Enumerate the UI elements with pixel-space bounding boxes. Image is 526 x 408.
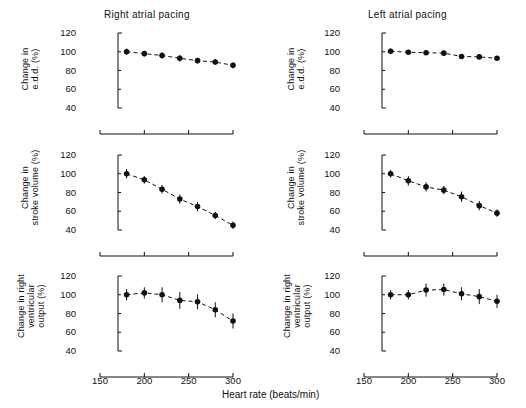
panel-title-right-atrial: Right atrial pacing	[104, 9, 190, 20]
data-point	[423, 287, 429, 293]
x-axis-spine	[100, 130, 233, 134]
ytick-label: 40	[318, 224, 340, 235]
x-axis-spine	[364, 373, 497, 377]
data-point	[212, 307, 218, 313]
data-point	[494, 210, 500, 216]
ytick-label: 80	[318, 65, 340, 76]
ylabel-rvo-left: Change in rightventricularoutput (%)	[16, 256, 46, 356]
data-point	[406, 49, 412, 55]
ytick-label: 80	[54, 65, 76, 76]
ytick-label: 120	[54, 149, 76, 160]
xtick-label: 200	[393, 375, 423, 386]
data-point	[142, 290, 148, 296]
ytick-label: 100	[54, 289, 76, 300]
data-point	[177, 56, 183, 62]
ytick-label: 60	[54, 83, 76, 94]
ylabel-sv-left: Change instroke volume (%)	[20, 140, 40, 235]
data-point	[195, 299, 201, 305]
ytick-label: 100	[54, 46, 76, 57]
data-point	[159, 186, 165, 192]
data-point	[124, 292, 130, 298]
ytick-label: 40	[54, 102, 76, 113]
data-point	[476, 203, 482, 209]
data-point	[423, 50, 429, 56]
plot-middle-right	[344, 147, 526, 272]
plot-top-right	[344, 25, 526, 150]
data-point	[230, 318, 236, 324]
ytick-label: 120	[318, 149, 340, 160]
data-point	[441, 50, 447, 56]
xtick-label: 150	[85, 375, 115, 386]
ytick-label: 100	[318, 168, 340, 179]
data-point	[230, 63, 236, 69]
plot-middle-left	[80, 147, 303, 272]
data-point	[212, 59, 218, 65]
ytick-label: 120	[54, 270, 76, 281]
ytick-label: 60	[318, 205, 340, 216]
data-point	[212, 213, 218, 219]
data-point	[142, 177, 148, 183]
plot-top-left	[80, 25, 303, 150]
xtick-label: 150	[349, 375, 379, 386]
data-point	[441, 187, 447, 193]
ytick-label: 120	[318, 27, 340, 38]
xtick-label: 250	[174, 375, 204, 386]
ytick-label: 60	[54, 205, 76, 216]
figure-panel-grid: Right atrial pacing Left atrial pacing C…	[0, 0, 526, 408]
data-point	[124, 171, 130, 177]
ytick-label: 60	[318, 83, 340, 94]
ytick-label: 120	[54, 27, 76, 38]
ytick-label: 100	[318, 289, 340, 300]
ytick-label: 40	[318, 102, 340, 113]
x-axis-spine	[364, 252, 497, 256]
x-axis-spine	[364, 130, 497, 134]
ytick-label: 80	[54, 187, 76, 198]
ytick-label: 80	[54, 308, 76, 319]
data-point	[230, 223, 236, 229]
x-axis-spine	[100, 373, 233, 377]
data-point	[476, 54, 482, 60]
data-point	[195, 204, 201, 210]
data-point	[159, 53, 165, 59]
data-point	[441, 287, 447, 293]
x-axis-spine	[100, 252, 233, 256]
data-point	[159, 292, 165, 298]
data-point	[388, 48, 394, 54]
data-point	[476, 294, 482, 300]
data-point	[406, 178, 412, 184]
xtick-label: 250	[438, 375, 468, 386]
xtick-label: 200	[129, 375, 159, 386]
data-point	[406, 292, 412, 298]
data-point	[124, 49, 130, 55]
data-point	[459, 291, 465, 297]
data-point	[177, 196, 183, 202]
ytick-label: 100	[318, 46, 340, 57]
ytick-label: 60	[54, 326, 76, 337]
data-point	[423, 184, 429, 190]
data-point	[388, 292, 394, 298]
ytick-label: 40	[54, 224, 76, 235]
ytick-label: 60	[318, 326, 340, 337]
panel-title-left-atrial: Left atrial pacing	[368, 9, 447, 20]
data-point	[142, 51, 148, 57]
ytick-label: 120	[318, 270, 340, 281]
data-point	[388, 171, 394, 177]
xtick-label: 300	[482, 375, 512, 386]
ytick-label: 80	[318, 308, 340, 319]
ytick-label: 40	[54, 345, 76, 356]
data-point	[459, 54, 465, 60]
xtick-label: 300	[218, 375, 248, 386]
ytick-label: 80	[318, 187, 340, 198]
data-point	[494, 56, 500, 62]
data-point	[494, 299, 500, 305]
ytick-label: 40	[318, 345, 340, 356]
ylabel-edd-left: Change ine.d.d. (%)	[20, 25, 40, 113]
ytick-label: 100	[54, 168, 76, 179]
data-point	[195, 58, 201, 64]
data-point	[459, 194, 465, 200]
data-point	[177, 298, 183, 304]
